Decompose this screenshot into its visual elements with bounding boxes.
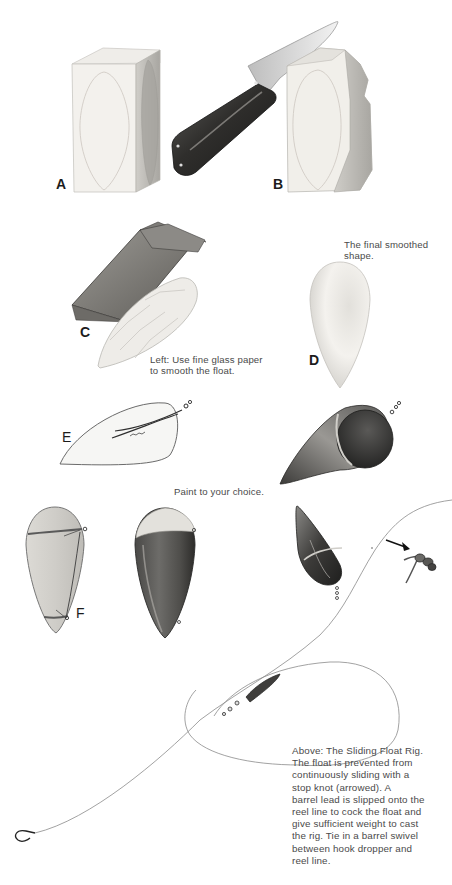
figure-label-f: F xyxy=(76,606,85,620)
painted-float-illustration xyxy=(280,401,401,484)
block-b-illustration xyxy=(287,48,372,192)
figure-label-c: C xyxy=(80,325,90,339)
figure-label-b: B xyxy=(273,177,283,191)
figure-label-e: E xyxy=(62,430,71,444)
float-e-illustration xyxy=(60,400,192,464)
caption-final-shape: The final smoothed shape. xyxy=(344,239,428,262)
caption-glass-paper: Left: Use fine glass paper to smooth the… xyxy=(150,354,263,377)
float-d-illustration xyxy=(310,262,370,388)
stop-knot-illustration xyxy=(386,540,436,583)
figure-label-a: A xyxy=(56,177,66,191)
figure-label-d: D xyxy=(309,353,319,367)
caption-sliding-float-rig: Above: The Sliding Float Rig. The float … xyxy=(292,745,425,867)
caption-paint: Paint to your choice. xyxy=(174,486,264,497)
block-a-illustration xyxy=(72,48,160,192)
sanding-illustration xyxy=(72,222,206,368)
instruction-page: A B C D E F The final smoothed shape. Le… xyxy=(0,0,452,885)
painted-whipped-float-illustration xyxy=(135,508,196,638)
rig-float-illustration xyxy=(296,506,342,600)
